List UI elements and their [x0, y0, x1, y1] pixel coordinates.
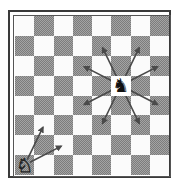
square-g3[interactable]: [131, 115, 150, 135]
square-d1[interactable]: [73, 155, 92, 175]
square-d8[interactable]: [73, 16, 92, 36]
square-f1[interactable]: [111, 155, 130, 175]
square-h2[interactable]: [150, 135, 169, 155]
square-b3[interactable]: [34, 115, 53, 135]
square-h7[interactable]: [150, 36, 169, 56]
square-b2[interactable]: [34, 135, 53, 155]
square-b4[interactable]: [34, 96, 53, 116]
square-e6[interactable]: [92, 56, 111, 76]
square-g8[interactable]: [131, 16, 150, 36]
square-c6[interactable]: [54, 56, 73, 76]
square-h1[interactable]: [150, 155, 169, 175]
square-e2[interactable]: [92, 135, 111, 155]
square-g1[interactable]: [131, 155, 150, 175]
square-f8[interactable]: [111, 16, 130, 36]
square-g2[interactable]: [131, 135, 150, 155]
square-h5[interactable]: [150, 76, 169, 96]
square-a3[interactable]: [15, 115, 34, 135]
square-e8[interactable]: [92, 16, 111, 36]
square-a2[interactable]: [15, 135, 34, 155]
square-h3[interactable]: [150, 115, 169, 135]
square-d6[interactable]: [73, 56, 92, 76]
square-f2[interactable]: [111, 135, 130, 155]
square-g7[interactable]: [131, 36, 150, 56]
square-c2[interactable]: [54, 135, 73, 155]
square-d5[interactable]: [73, 76, 92, 96]
square-e3[interactable]: [92, 115, 111, 135]
square-b5[interactable]: [34, 76, 53, 96]
square-b1[interactable]: [34, 155, 53, 175]
square-d7[interactable]: [73, 36, 92, 56]
square-e4[interactable]: [92, 96, 111, 116]
square-b7[interactable]: [34, 36, 53, 56]
square-g6[interactable]: [131, 56, 150, 76]
square-g5[interactable]: [131, 76, 150, 96]
square-e1[interactable]: [92, 155, 111, 175]
square-h4[interactable]: [150, 96, 169, 116]
square-f6[interactable]: [111, 56, 130, 76]
chess-board: [15, 16, 169, 175]
square-c4[interactable]: [54, 96, 73, 116]
square-c1[interactable]: [54, 155, 73, 175]
square-a8[interactable]: [15, 16, 34, 36]
square-a4[interactable]: [15, 96, 34, 116]
square-c5[interactable]: [54, 76, 73, 96]
square-h6[interactable]: [150, 56, 169, 76]
square-e5[interactable]: [92, 76, 111, 96]
square-a5[interactable]: [15, 76, 34, 96]
square-e7[interactable]: [92, 36, 111, 56]
black-knight-icon[interactable]: ♞: [111, 76, 130, 96]
square-d3[interactable]: [73, 115, 92, 135]
square-g4[interactable]: [131, 96, 150, 116]
square-b6[interactable]: [34, 56, 53, 76]
white-knight-icon[interactable]: ♘: [15, 155, 34, 175]
square-b8[interactable]: [34, 16, 53, 36]
square-f4[interactable]: [111, 96, 130, 116]
square-f7[interactable]: [111, 36, 130, 56]
square-d4[interactable]: [73, 96, 92, 116]
square-c7[interactable]: [54, 36, 73, 56]
square-a7[interactable]: [15, 36, 34, 56]
square-a6[interactable]: [15, 56, 34, 76]
square-h8[interactable]: [150, 16, 169, 36]
square-f3[interactable]: [111, 115, 130, 135]
square-c3[interactable]: [54, 115, 73, 135]
square-d2[interactable]: [73, 135, 92, 155]
square-c8[interactable]: [54, 16, 73, 36]
